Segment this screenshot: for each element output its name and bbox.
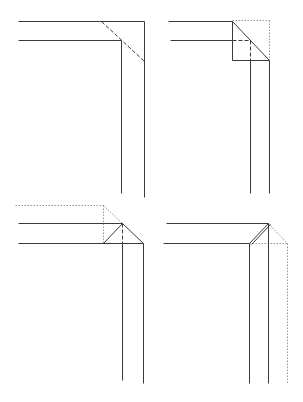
panel-step-2: [169, 21, 270, 194]
panel-step-4: [164, 224, 288, 384]
fold-guide-line: [269, 224, 288, 244]
mitered-corner-diagram: [0, 0, 303, 402]
edge-line: [252, 225, 271, 245]
fold-guide-line: [104, 206, 123, 224]
edge-line: [123, 224, 144, 244]
edge-line: [250, 224, 269, 244]
panel-step-3: [16, 206, 144, 384]
fold-line: [102, 22, 145, 62]
panel-step-1: [19, 22, 145, 198]
edge-line: [104, 224, 123, 244]
